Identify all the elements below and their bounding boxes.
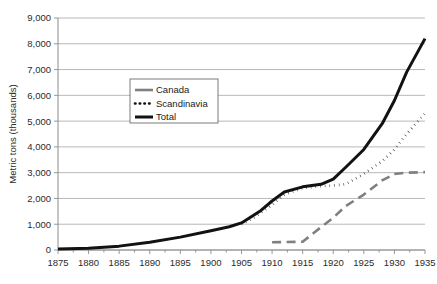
legend-label-total: Total xyxy=(156,111,176,122)
x-tick-label: 1875 xyxy=(47,257,68,268)
y-tick-label: 7,000 xyxy=(27,64,51,75)
axis-lines xyxy=(58,18,425,250)
legend-label-canada: Canada xyxy=(156,84,190,95)
legend-label-scandinavia: Scandinavia xyxy=(156,98,208,109)
series-line-canada xyxy=(272,172,425,242)
chart-legend: CanadaScandinaviaTotal xyxy=(130,79,218,123)
x-axis-ticklabels: 1875188018851890189519001905191019151920… xyxy=(47,250,435,268)
data-series-group xyxy=(58,39,425,249)
y-tick-label: 4,000 xyxy=(27,141,51,152)
x-tick-label: 1890 xyxy=(139,257,160,268)
y-tick-label: 3,000 xyxy=(27,167,51,178)
y-tick-label: 6,000 xyxy=(27,90,51,101)
series-line-scandinavia xyxy=(242,113,426,224)
y-tick-label: 5,000 xyxy=(27,116,51,127)
chart-canvas: 01,0002,0003,0004,0005,0006,0007,0008,00… xyxy=(0,0,437,284)
y-tick-label: 8,000 xyxy=(27,38,51,49)
y-tick-label: 9,000 xyxy=(27,12,51,23)
x-tick-label: 1925 xyxy=(353,257,374,268)
y-axis-title: Metric tons (thousands) xyxy=(7,84,18,183)
x-tick-label: 1915 xyxy=(292,257,313,268)
x-tick-label: 1885 xyxy=(109,257,130,268)
x-tick-label: 1905 xyxy=(231,257,252,268)
x-tick-label: 1930 xyxy=(384,257,405,268)
y-tick-label: 0 xyxy=(46,244,51,255)
x-tick-label: 1920 xyxy=(323,257,344,268)
x-tick-label: 1880 xyxy=(78,257,99,268)
x-tick-label: 1895 xyxy=(170,257,191,268)
x-tick-label: 1935 xyxy=(414,257,435,268)
line-chart: 01,0002,0003,0004,0005,0006,0007,0008,00… xyxy=(0,0,437,284)
y-tick-label: 1,000 xyxy=(27,219,51,230)
series-line-total xyxy=(58,39,425,249)
y-tick-label: 2,000 xyxy=(27,193,51,204)
y-axis-ticklabels: 01,0002,0003,0004,0005,0006,0007,0008,00… xyxy=(27,12,51,255)
x-tick-label: 1910 xyxy=(262,257,283,268)
x-tick-label: 1900 xyxy=(200,257,221,268)
gridlines-group xyxy=(54,18,425,250)
